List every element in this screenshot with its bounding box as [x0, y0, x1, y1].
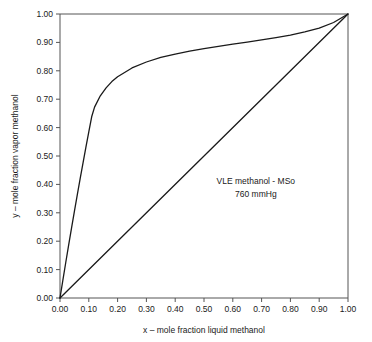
x-tick-label: 0.50 — [196, 304, 213, 314]
y-tick-label: 0.60 — [36, 123, 53, 133]
x-tick-label: 0.70 — [253, 304, 270, 314]
x-tick-label: 0.10 — [81, 304, 98, 314]
x-tick-label: 0.60 — [225, 304, 242, 314]
x-axis-title: x – mole fraction liquid methanol — [143, 325, 265, 335]
x-tick-label: 0.40 — [167, 304, 184, 314]
y-tick-label: 0.40 — [36, 179, 53, 189]
y-axis-title: y – mole fraction vapor methanol — [10, 94, 20, 217]
x-tick-label: 0.90 — [311, 304, 328, 314]
y-tick-label: 0.50 — [36, 151, 53, 161]
y-tick-label: 0.70 — [36, 94, 53, 104]
y-tick-label: 0.90 — [36, 37, 53, 47]
vle-chart: 0.000.100.200.300.400.500.600.700.800.90… — [0, 0, 372, 342]
plot-annotation-text: VLE methanol - MSo — [217, 176, 296, 186]
x-tick-label: 0.20 — [109, 304, 126, 314]
x-tick-label: 0.30 — [138, 304, 155, 314]
plot-annotation-text: 760 mmHg — [235, 189, 277, 199]
y-tick-label: 0.80 — [36, 66, 53, 76]
y-tick-label: 0.20 — [36, 236, 53, 246]
y-tick-label: 0.00 — [36, 293, 53, 303]
y-tick-label: 0.10 — [36, 265, 53, 275]
x-tick-label: 0.00 — [52, 304, 69, 314]
chart-page: 0.000.100.200.300.400.500.600.700.800.90… — [0, 0, 372, 342]
y-tick-label: 0.30 — [36, 208, 53, 218]
y-tick-label: 1.00 — [36, 9, 53, 19]
x-tick-label: 0.80 — [282, 304, 299, 314]
x-tick-label: 1.00 — [340, 304, 357, 314]
